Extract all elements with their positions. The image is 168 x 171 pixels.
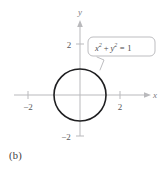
y-tick-label-pos2: 2 (67, 40, 72, 50)
y-axis-label: y (77, 7, 82, 17)
x-axis-arrowhead (144, 92, 151, 98)
y-axis: y (77, 7, 83, 136)
figure-container: x y −2 2 2 −2 (0, 0, 168, 171)
y-tick-label-neg2: −2 (61, 132, 71, 142)
x-axis: x (14, 90, 157, 100)
x-axis-ticks: −2 2 (23, 91, 122, 112)
x-tick-label-neg2: −2 (23, 102, 33, 112)
callout-x-exponent: 2 (99, 42, 102, 48)
x-tick-label-pos2: 2 (118, 102, 123, 112)
callout-equals: = (120, 43, 125, 53)
figure-caption: (b) (9, 150, 22, 161)
callout-tail-line (97, 57, 104, 70)
callout-pointer (97, 57, 104, 70)
callout-box: x2+y2=1 (88, 37, 155, 56)
callout-plus: + (104, 43, 109, 53)
callout-y-exponent: 2 (114, 42, 117, 48)
callout-rhs: 1 (127, 43, 131, 53)
y-axis-ticks: 2 −2 (61, 40, 84, 142)
x-axis-label: x (152, 90, 157, 100)
unit-circle-plot: x y −2 2 2 −2 (0, 0, 168, 171)
y-axis-arrowhead (77, 20, 83, 27)
